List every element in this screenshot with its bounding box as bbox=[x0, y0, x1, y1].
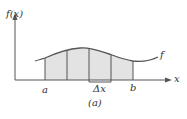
subinterval-label: Δx bbox=[93, 84, 106, 94]
y-axis-label: f(x) bbox=[6, 9, 23, 19]
curve-label: f bbox=[160, 50, 164, 60]
right-bound-label: b bbox=[130, 83, 136, 93]
x-axis-arrow-icon bbox=[165, 78, 172, 83]
x-axis-label: x bbox=[174, 74, 180, 84]
riemann-sum-diagram: f(x) x f a Δx b (a) bbox=[0, 0, 187, 119]
caption: (a) bbox=[88, 98, 102, 108]
left-bound-label: a bbox=[42, 85, 48, 95]
